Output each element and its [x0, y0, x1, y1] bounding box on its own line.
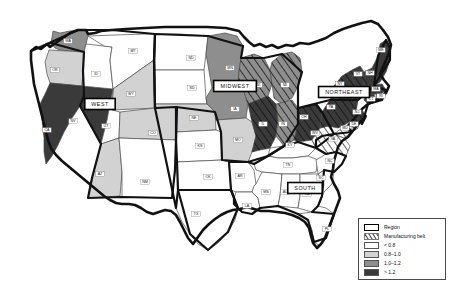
class3-swatch-icon	[364, 260, 379, 267]
map-figure: WAORCANVIDMTWYUTAZCONMNDSDNEKSOKTXMNIAMO…	[0, 0, 454, 297]
state-label-vt: VT	[356, 72, 361, 76]
legend-item-class2: 0.8–1.0	[364, 250, 440, 259]
state-label-az: AZ	[98, 172, 103, 176]
state-label-ok: OK	[205, 175, 211, 179]
legend-label-class1: < 0.8	[384, 243, 395, 248]
state-label-sc: SC	[319, 176, 324, 180]
region-swatch-icon	[364, 224, 379, 231]
state-label-ut: UT	[104, 124, 110, 128]
state-label-wv: WV	[312, 131, 318, 135]
legend-item-class1: < 0.8	[364, 241, 440, 250]
region-label-west: WEST	[91, 101, 109, 107]
region-label-midwest: MIDWEST	[221, 83, 250, 89]
state-label-va: VA	[331, 137, 336, 141]
state-label-or: OR	[52, 68, 58, 72]
region-label-northeast: NORTHEAST	[325, 89, 363, 95]
class4-swatch-icon	[364, 269, 379, 276]
state-label-ky: KY	[288, 143, 293, 147]
legend: Region Manufacturing belt < 0.8 0.8–1.0 …	[358, 218, 446, 280]
state-label-sd: SD	[190, 86, 195, 90]
state-label-mt: MT	[130, 49, 136, 53]
class1-swatch-icon	[364, 242, 379, 249]
state-label-mi: MI	[283, 83, 287, 87]
legend-label-region: Region	[384, 225, 400, 230]
state-label-tx: TX	[194, 212, 199, 216]
state-label-in: IN	[281, 122, 285, 126]
state-label-me: ME	[378, 48, 384, 52]
state-label-pa: PA	[329, 105, 334, 109]
legend-item-manufacturing-belt: Manufacturing belt	[364, 232, 440, 241]
legend-label-manufacturing-belt: Manufacturing belt	[384, 234, 425, 239]
state-label-nm: NM	[142, 180, 148, 184]
state-label-al: AL	[283, 190, 287, 194]
state-label-md: MD	[342, 126, 348, 130]
state-label-nc: NC	[327, 159, 333, 163]
state-co	[119, 107, 177, 140]
state-label-ia: IA	[233, 107, 237, 111]
state-label-de: DE	[352, 122, 358, 126]
state-id	[82, 44, 113, 89]
state-label-oh: OH	[301, 115, 307, 119]
state-label-ms: MS	[263, 190, 269, 194]
legend-item-class4: > 1.2	[364, 268, 440, 277]
state-label-mo: MO	[235, 138, 241, 142]
state-label-ri: RI	[379, 94, 383, 98]
state-label-ks: KS	[198, 144, 203, 148]
legend-label-class3: 1.0–1.2	[384, 261, 401, 266]
state-label-ma: MA	[373, 87, 379, 91]
state-label-wy: WY	[128, 92, 134, 96]
legend-item-class3: 1.0–1.2	[364, 259, 440, 268]
legend-label-class2: 0.8–1.0	[384, 252, 401, 257]
legend-label-class4: > 1.2	[384, 270, 395, 275]
state-label-la: LA	[245, 204, 250, 208]
state-label-il: IL	[262, 122, 265, 126]
state-label-mn: MN	[227, 66, 233, 70]
state-label-nd: ND	[188, 56, 194, 60]
state-label-co: CO	[150, 131, 156, 135]
state-ca	[40, 83, 84, 164]
hatch-swatch-icon	[364, 233, 379, 240]
state-label-fl: FL	[325, 227, 329, 231]
state-label-nv: NV	[71, 119, 77, 123]
manufacturing-belt-overlay	[238, 52, 368, 156]
state-label-tn: TN	[286, 163, 291, 167]
class2-swatch-icon	[364, 251, 379, 258]
region-label-south: SOUTH	[294, 185, 315, 191]
state-label-ca: CA	[45, 128, 51, 132]
legend-item-region: Region	[364, 223, 440, 232]
state-label-nh: NH	[367, 71, 373, 75]
state-sd	[155, 70, 207, 104]
state-nd	[155, 34, 208, 70]
state-label-ar: AR	[238, 174, 243, 178]
state-az	[88, 138, 122, 198]
state-label-wa: WA	[65, 39, 71, 43]
state-label-nj: NJ	[355, 110, 360, 114]
state-label-id: ID	[94, 72, 98, 76]
state-label-ne: NE	[192, 116, 198, 120]
